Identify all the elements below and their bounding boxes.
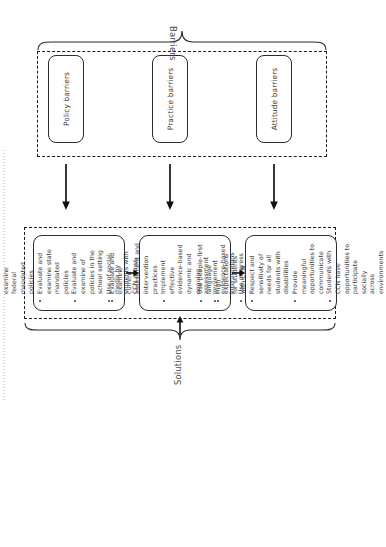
arrow-solution-policy-to-practice: [126, 267, 139, 279]
list-item: Evaluate and examine federal mandated po…: [0, 243, 36, 303]
arrow-attitude-barrier-to-solutions: [268, 164, 280, 210]
arrow-brace-to-solutions: [174, 315, 186, 335]
list-item: Provide meaningful opportunities to comm…: [291, 243, 325, 303]
barrier-label-practice: Practice barriers: [166, 68, 175, 131]
solutions-group-label: Solutions: [173, 345, 183, 385]
barrier-label-policy: Policy barriers: [62, 72, 71, 126]
list-item: Students with CCN have opportunities to …: [325, 243, 368, 303]
list-item: Respect and sensitivity of needs for all…: [248, 243, 291, 303]
barrier-label-attitude: Attitude barriers: [270, 68, 279, 131]
barrier-box-practice: Practice barriers: [152, 55, 188, 143]
list-item-continuation: across environments: [368, 243, 385, 303]
barriers-group-label: Barriers: [168, 26, 178, 61]
list-item: Evaluate and examine state mandated poli…: [36, 243, 70, 303]
list-item: Evaluate and examine of policies in the …: [70, 243, 104, 303]
solution-box-attitude: Use people-first language High expectati…: [245, 235, 337, 311]
arrow-practice-barrier-to-solutions: [164, 164, 176, 210]
barrier-box-policy: Policy barriers: [48, 55, 84, 143]
barrier-box-attitude: Attitude barriers: [256, 55, 292, 143]
barriers-brace: [37, 29, 327, 51]
arrow-policy-barrier-to-solutions: [60, 164, 72, 210]
list-item: Use people-first language: [196, 243, 213, 303]
list-item-continuation: practices: [151, 243, 160, 303]
solution-attitude-list: Use people-first language High expectati…: [196, 243, 385, 303]
arrow-solution-practice-to-attitude: [232, 267, 245, 279]
